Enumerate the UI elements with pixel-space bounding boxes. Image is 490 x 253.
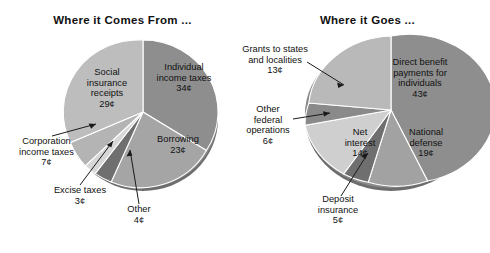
- label-grants-to-states: Grants to states and localities 13¢: [237, 44, 313, 76]
- label-individual-income-taxes: Individual income taxes 34¢: [146, 62, 222, 94]
- label-borrowing: Borrowing 23¢: [146, 134, 210, 155]
- chart-title-left: Where it Comes From ...: [0, 14, 245, 26]
- label-other: Other 4¢: [114, 204, 164, 225]
- label-corporation-income-taxes: Corporation income taxes 7¢: [0, 136, 93, 168]
- label-national-defense: National defense 19¢: [396, 127, 456, 159]
- label-deposit-insurance: Deposit insurance 5¢: [296, 194, 380, 226]
- label-social-insurance-receipts: Social insurance receipts 29¢: [76, 67, 138, 109]
- label-excise-taxes: Excise taxes 3¢: [38, 185, 122, 206]
- label-other-federal-operations: Other federal operations 6¢: [242, 104, 294, 146]
- chart-title-right: Where it Goes ...: [245, 14, 490, 26]
- budget-pie-figure: Where it Comes From ... Where it Goes ..…: [0, 0, 490, 253]
- label-net-interest: Net interest 14¢: [336, 127, 384, 159]
- label-direct-benefit-payments: Direct benefit payments for individuals …: [378, 57, 462, 99]
